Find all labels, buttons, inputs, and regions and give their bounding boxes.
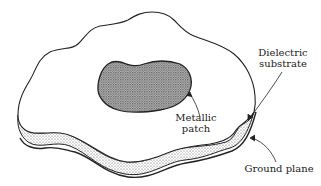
metallic-patch-label: Metallic patch [174, 112, 218, 134]
patch-label-line2: patch [174, 123, 218, 134]
metallic-patch [98, 61, 191, 112]
dielectric-label-line2: substrate [258, 58, 308, 69]
dielectric-substrate-label: Dielectric substrate [258, 47, 308, 69]
ground-plane-label: Ground plane [244, 163, 314, 174]
patch-label-line1: Metallic [174, 112, 218, 123]
microstrip-antenna-diagram [0, 0, 321, 186]
ground-plane-leader [250, 135, 276, 162]
ground-label-text: Ground plane [244, 163, 314, 174]
dielectric-label-line1: Dielectric [258, 47, 308, 58]
